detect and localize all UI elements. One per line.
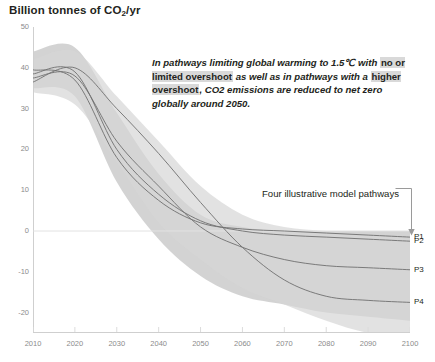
y-tick-label: 40 [5,64,29,72]
x-tick-label: 2030 [97,339,137,348]
x-tick-label: 2040 [139,339,179,348]
y-tick-label: 20 [5,145,29,153]
pathway-label-p4: P4 [414,297,424,306]
chart-title-prefix: Billion tonnes of CO [9,4,122,16]
annotation-text-run: as well as in pathways with a [233,71,371,82]
chart-container: Billion tonnes of CO2/yr 50403020100-10-… [0,0,435,362]
annotation-text-run: In pathways limiting global warming to 1… [152,57,380,68]
pathway-label-p3: P3 [414,265,424,274]
chart-title-subscript: 2 [122,9,127,18]
pathways-bracket-icon [395,186,421,238]
pathway-label-p2: P2 [414,236,424,245]
x-tick-label: 2070 [264,339,304,348]
y-tick-label: -10 [5,268,29,276]
chart-title: Billion tonnes of CO2/yr [9,4,140,16]
y-tick-label: 10 [5,186,29,194]
y-axis-labels: 50403020100-10-20 [3,27,29,333]
x-tick-label: 2060 [222,339,262,348]
y-tick-label: 50 [5,23,29,31]
x-tick-label: 2050 [181,339,221,348]
pathways-caption: Four illustrative model pathways [262,188,399,199]
x-tick-label: 2090 [348,339,388,348]
annotation-net-zero-note: In pathways limiting global warming to 1… [152,56,414,110]
x-tick-label: 2100 [390,339,430,348]
y-tick-label: 30 [5,105,29,113]
y-tick-label: 0 [5,227,29,235]
x-tick-label: 2010 [13,339,53,348]
y-tick-label: -20 [5,309,29,317]
x-tick-label: 2020 [55,339,95,348]
x-axis-labels: 2010202020302040205020602070208020902100 [33,339,410,353]
x-tick-label: 2080 [306,339,346,348]
chart-title-suffix: /yr [126,4,140,16]
